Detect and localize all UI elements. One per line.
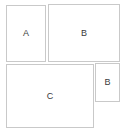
box-c[interactable]: C [6, 64, 94, 128]
box-c-label: C [47, 92, 54, 101]
box-b-small[interactable]: B [95, 63, 120, 102]
box-a-label: A [23, 29, 29, 38]
box-a[interactable]: A [6, 5, 46, 62]
box-b-small-label: B [104, 78, 110, 87]
diagram-canvas: A B C B [0, 0, 126, 134]
box-b-large[interactable]: B [48, 4, 120, 62]
box-b-large-label: B [81, 29, 87, 38]
